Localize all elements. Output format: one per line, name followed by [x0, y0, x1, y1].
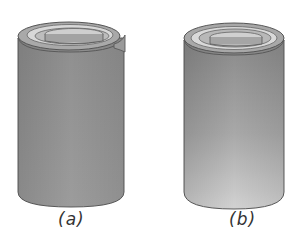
- caption-b: (b): [229, 211, 256, 228]
- cylinders-drawing: [0, 0, 294, 240]
- cylinder-figure: (a) (b): [0, 0, 294, 240]
- cylinder-b: [184, 23, 284, 209]
- cylinder-a: [18, 22, 125, 207]
- caption-a: (a): [58, 211, 85, 228]
